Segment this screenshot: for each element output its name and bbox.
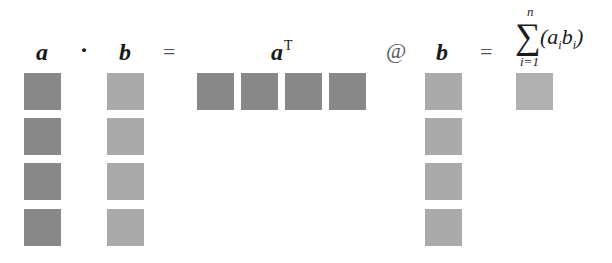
vector-b2-element-1 bbox=[425, 73, 462, 110]
vector-aT-element-3 bbox=[285, 73, 322, 110]
vector-aT-element-4 bbox=[329, 73, 366, 110]
vector-a-element-1 bbox=[24, 73, 61, 110]
vector-b-element-1 bbox=[107, 73, 144, 110]
vector-b-label: b bbox=[119, 40, 131, 64]
vector-b2-label: b bbox=[436, 40, 448, 64]
vector-a-label: a bbox=[36, 40, 48, 64]
vector-aT-element-2 bbox=[241, 73, 278, 110]
vector-b-element-4 bbox=[107, 209, 144, 246]
vector-b-element-3 bbox=[107, 163, 144, 200]
vector-a-element-4 bbox=[24, 209, 61, 246]
equals-sign-2: = bbox=[480, 41, 492, 63]
sum-lower-limit: i=1 bbox=[520, 54, 539, 70]
vector-b-element-2 bbox=[107, 118, 144, 155]
vector-a-transpose-label: aT bbox=[271, 40, 293, 64]
scalar-result bbox=[516, 73, 553, 110]
vector-aT-element-1 bbox=[197, 73, 234, 110]
equals-sign-1: = bbox=[163, 41, 175, 63]
dot-product-operator: · bbox=[80, 38, 88, 62]
summation-formula: n ∑ i=1 (aibi) bbox=[513, 2, 612, 72]
matmul-operator: @ bbox=[386, 40, 406, 62]
transpose-superscript: T bbox=[284, 38, 293, 53]
vector-a-element-2 bbox=[24, 118, 61, 155]
vector-b2-element-2 bbox=[425, 118, 462, 155]
vector-b2-element-3 bbox=[425, 163, 462, 200]
vector-b2-element-4 bbox=[425, 209, 462, 246]
sigma-symbol: ∑ bbox=[515, 18, 541, 54]
sum-body: (aibi) bbox=[540, 24, 583, 50]
vector-a-element-3 bbox=[24, 163, 61, 200]
